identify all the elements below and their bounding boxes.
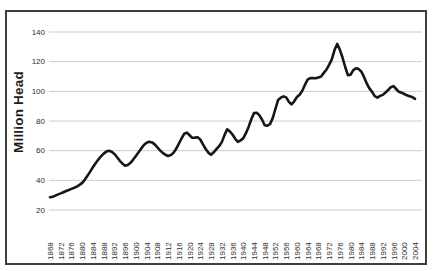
x-tick-label: 1960 xyxy=(293,242,302,260)
x-tick-label: 1936 xyxy=(229,242,238,260)
y-tick-label: 80 xyxy=(18,117,45,126)
y-tick-label: 140 xyxy=(18,28,45,37)
x-tick-label: 1888 xyxy=(100,242,109,260)
x-tick-label: 1916 xyxy=(175,242,184,260)
chart-canvas: Million Head 20406080100120140 186818721… xyxy=(0,0,433,271)
line-plot xyxy=(0,0,433,271)
y-tick-label: 40 xyxy=(18,176,45,185)
x-tick-label: 1972 xyxy=(325,242,334,260)
x-tick-label: 1928 xyxy=(207,242,216,260)
y-axis-title: Million Head xyxy=(11,71,26,153)
x-tick-label: 1980 xyxy=(347,242,356,260)
x-tick-label: 1920 xyxy=(186,242,195,260)
y-tick-label: 60 xyxy=(18,146,45,155)
x-tick-label: 1884 xyxy=(89,242,98,260)
x-tick-label: 1956 xyxy=(282,242,291,260)
y-tick-label: 20 xyxy=(18,206,45,215)
y-tick-label: 100 xyxy=(18,87,45,96)
x-tick-label: 1932 xyxy=(218,242,227,260)
y-tick-label: 120 xyxy=(18,57,45,66)
x-tick-label: 1892 xyxy=(110,242,119,260)
x-tick-label: 1976 xyxy=(336,242,345,260)
x-tick-label: 1868 xyxy=(46,242,55,260)
x-tick-label: 1952 xyxy=(271,242,280,260)
x-tick-label: 1940 xyxy=(239,242,248,260)
x-tick-label: 1896 xyxy=(121,242,130,260)
x-tick-label: 2000 xyxy=(400,242,409,260)
x-tick-label: 1900 xyxy=(132,242,141,260)
x-tick-label: 1984 xyxy=(357,242,366,260)
x-tick-label: 1876 xyxy=(67,242,76,260)
x-tick-label: 1872 xyxy=(57,242,66,260)
x-tick-label: 1996 xyxy=(390,242,399,260)
gridlines xyxy=(49,32,422,210)
x-tick-label: 1992 xyxy=(379,242,388,260)
x-tick-label: 1908 xyxy=(153,242,162,260)
x-tick-label: 1988 xyxy=(368,242,377,260)
x-tick-label: 1968 xyxy=(314,242,323,260)
x-tick-label: 1948 xyxy=(261,242,270,260)
x-tick-label: 1880 xyxy=(78,242,87,260)
x-tick-label: 1924 xyxy=(196,242,205,260)
x-tick-label: 2004 xyxy=(411,242,420,260)
x-tick-label: 1964 xyxy=(304,242,313,260)
x-tick-label: 1912 xyxy=(164,242,173,260)
x-tick-label: 1944 xyxy=(250,242,259,260)
x-tick-label: 1904 xyxy=(143,242,152,260)
